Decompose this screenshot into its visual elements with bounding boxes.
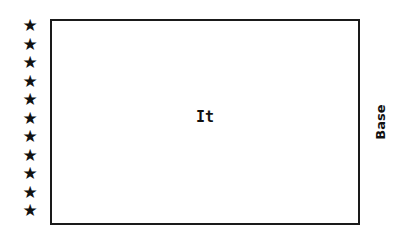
star-icon: ★ bbox=[21, 201, 39, 219]
star-icon: ★ bbox=[21, 127, 39, 145]
side-label: Base bbox=[373, 104, 388, 139]
star-icon: ★ bbox=[21, 16, 39, 34]
star-icon: ★ bbox=[21, 53, 39, 71]
box-label: It bbox=[196, 108, 214, 126]
star-icon: ★ bbox=[21, 90, 39, 108]
star-icon: ★ bbox=[21, 183, 39, 201]
star-icon: ★ bbox=[21, 72, 39, 90]
star-icon: ★ bbox=[21, 109, 39, 127]
star-icon: ★ bbox=[21, 146, 39, 164]
star-icon: ★ bbox=[21, 164, 39, 182]
star-icon: ★ bbox=[21, 35, 39, 53]
